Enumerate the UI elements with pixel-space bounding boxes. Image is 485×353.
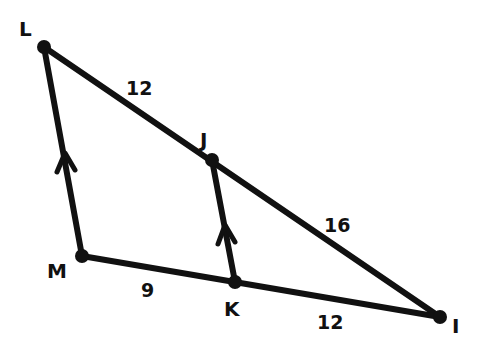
vertex-label-M: M	[47, 259, 67, 283]
segment-MI	[82, 256, 440, 317]
vertex-label-I: I	[452, 314, 459, 338]
vertex-I-point	[433, 310, 447, 324]
vertex-label-K: K	[224, 297, 241, 321]
segment-LI	[44, 47, 440, 317]
length-label-JI: 16	[324, 214, 350, 236]
triangle-diagram: L J I M K 12 16 9 12	[0, 0, 485, 353]
vertex-J-point	[205, 153, 219, 167]
vertex-L-point	[37, 40, 51, 54]
vertex-K-point	[228, 275, 242, 289]
vertex-label-L: L	[19, 17, 32, 41]
length-label-LJ: 12	[126, 77, 152, 99]
vertex-M-point	[75, 249, 89, 263]
length-label-KI: 12	[317, 311, 343, 333]
vertex-label-J: J	[198, 128, 207, 152]
length-label-MK: 9	[141, 279, 154, 301]
